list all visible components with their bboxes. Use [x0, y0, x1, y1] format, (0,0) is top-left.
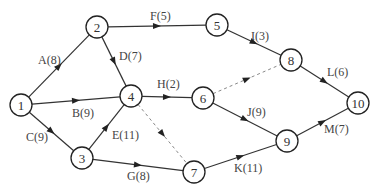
event-node-10: 10: [347, 92, 369, 114]
activity-edge: [32, 97, 120, 104]
activity-label: B(9): [72, 106, 94, 120]
activity-edge: [89, 105, 124, 150]
activity-label: D(7): [119, 49, 142, 63]
node-label: 9: [284, 134, 291, 149]
event-node-5: 5: [206, 14, 228, 36]
event-node-3: 3: [71, 147, 93, 169]
activity-label: J(9): [247, 105, 266, 119]
node-label: 3: [79, 151, 86, 166]
activity-label: A(8): [38, 53, 61, 67]
event-node-4: 4: [120, 85, 142, 107]
arrowhead-icon: [72, 97, 80, 104]
activity-label: C(9): [26, 130, 48, 144]
activity-label: L(6): [327, 65, 348, 79]
activity-label: K(11): [234, 161, 262, 175]
node-label: 10: [352, 96, 365, 111]
event-node-8: 8: [280, 49, 302, 71]
activity-label: G(8): [127, 169, 150, 183]
activity-edge: [142, 94, 192, 100]
node-label: 7: [191, 165, 198, 180]
activity-label: E(11): [112, 128, 139, 142]
activity-label: I(3): [251, 29, 269, 43]
arrowhead-icon: [110, 57, 119, 67]
dummy-activity-edge: [138, 104, 187, 163]
node-label: 2: [94, 20, 101, 35]
node-label: 5: [214, 18, 221, 33]
activity-edge: [213, 103, 277, 136]
node-label: 8: [288, 53, 295, 68]
event-node-7: 7: [183, 161, 205, 183]
arrowhead-icon: [153, 23, 161, 29]
arrowhead-icon: [236, 152, 245, 160]
event-node-2: 2: [86, 16, 108, 38]
dummy-activity-edge: [213, 64, 281, 93]
activity-label: H(2): [157, 77, 180, 91]
node-label: 1: [18, 98, 25, 113]
node-label: 6: [200, 91, 207, 106]
event-node-9: 9: [276, 130, 298, 152]
arrowhead-icon: [163, 94, 171, 100]
activity-edge: [108, 23, 206, 29]
activity-label: M(7): [324, 122, 349, 136]
network-diagram: A(8)B(9)C(9)D(7)E(11)F(5)G(8)H(2)I(3)J(9…: [0, 0, 385, 195]
node-label: 4: [128, 89, 135, 104]
event-node-6: 6: [192, 87, 214, 109]
arrowhead-icon: [242, 75, 252, 84]
event-node-1: 1: [10, 94, 32, 116]
activity-label: F(5): [150, 9, 171, 23]
